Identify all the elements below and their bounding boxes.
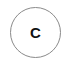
clear-button[interactable]: C bbox=[10, 7, 61, 58]
clear-button-label: C bbox=[30, 25, 41, 40]
